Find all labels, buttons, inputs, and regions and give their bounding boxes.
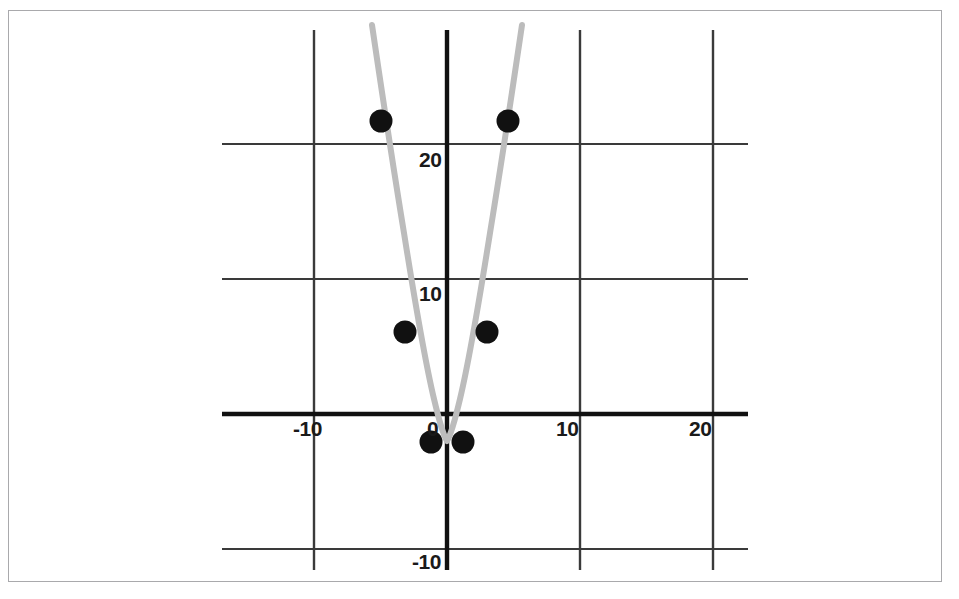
- graph-page: -10 0 10 20 20 10 -10: [0, 0, 959, 599]
- x-tick-label-10: 10: [556, 417, 578, 441]
- coordinate-plane-plot: [0, 0, 959, 599]
- x-tick-label-0: 0: [427, 417, 438, 441]
- data-point: [476, 321, 499, 344]
- y-tick-label-neg10: -10: [412, 550, 441, 574]
- y-tick-label-20: 20: [419, 148, 441, 172]
- x-tick-label-20: 20: [689, 417, 711, 441]
- data-point: [394, 321, 417, 344]
- y-tick-label-10: 10: [419, 282, 441, 306]
- horizontal-gridlines: [222, 144, 748, 549]
- x-tick-label-neg10: -10: [293, 417, 322, 441]
- data-point: [452, 431, 475, 454]
- data-point: [497, 110, 520, 133]
- data-point: [370, 110, 393, 133]
